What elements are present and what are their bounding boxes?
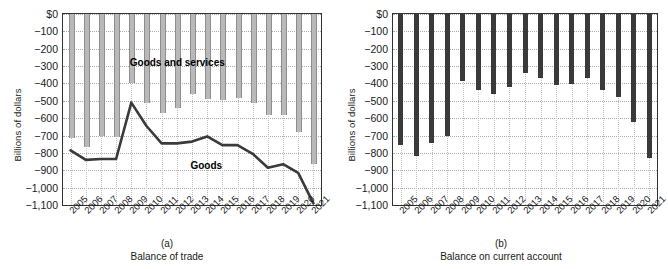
y-tick-label: −300 [0,60,58,72]
bar [616,14,621,97]
panel-a-caption-letter: (a) [0,238,334,249]
y-tick-label: −900 [0,164,58,176]
y-tick-label: −200 [328,43,388,55]
bar [491,14,496,94]
y-tick-label: −1,100 [0,199,58,211]
bar [398,14,403,145]
y-tick-label: −400 [328,77,388,89]
panel-a-plot-area: Goods and services Goods $0−100−200−300−… [62,13,322,206]
panel-b-balance-on-current-account: Billions of dollars $0−100−200−300−400−5… [334,0,668,269]
y-tick-label: −200 [0,43,58,55]
y-tick-label: −900 [328,164,388,176]
bar [585,14,590,78]
y-tick-label: −100 [328,25,388,37]
bar [631,14,636,122]
y-tick-label: −600 [0,112,58,124]
annotation-goods: Goods [190,160,222,171]
y-tick-label: $0 [0,8,58,20]
bar [460,14,465,81]
bar [445,14,450,136]
bar [429,14,434,143]
panel-b-caption-title: Balance on current account [334,251,668,262]
y-tick-label: −100 [0,25,58,37]
y-tick-label: −500 [0,95,58,107]
panel-b-plot-area: $0−100−200−300−400−500−600−700−800−900−1… [392,13,658,206]
panel-a-caption-title: Balance of trade [0,251,334,262]
y-tick-label: −400 [0,77,58,89]
y-tick-label: −1,000 [0,182,58,194]
bar [600,14,605,90]
line-series-goods [63,14,321,205]
figure-balance-of-trade-and-current-account: Billions of dollars Goods and services G… [0,0,668,269]
y-tick-label: −700 [0,130,58,142]
panel-b-current-account-bars [393,14,657,205]
panel-a-balance-of-trade: Billions of dollars Goods and services G… [0,0,334,269]
bar [554,14,559,85]
bar [538,14,543,78]
y-tick-label: −300 [328,60,388,72]
y-tick-label: −800 [328,147,388,159]
bar [476,14,481,90]
y-tick-label: −600 [328,112,388,124]
y-tick-label: −1,000 [328,182,388,194]
panel-a-goods-line [63,14,321,205]
y-tick-label: $0 [328,8,388,20]
y-tick-label: −500 [328,95,388,107]
y-tick-label: −800 [0,147,58,159]
annotation-goods-and-services: Goods and services [130,57,225,68]
bar [507,14,512,87]
y-tick-label: −1,100 [328,199,388,211]
bar [414,14,419,156]
bar [569,14,574,84]
bar [647,14,652,158]
bar [523,14,528,73]
panel-b-caption-letter: (b) [334,238,668,249]
y-tick-label: −700 [328,130,388,142]
